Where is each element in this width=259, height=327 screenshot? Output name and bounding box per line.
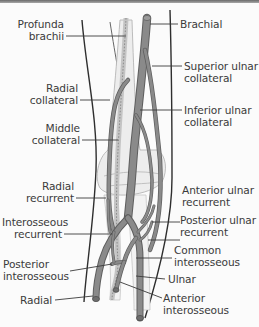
- label-line: Posterior ulnar: [180, 214, 256, 226]
- label-line: Posterior: [3, 258, 69, 270]
- label-inferior-ulnar-collateral: Inferior ulnar collateral: [184, 104, 251, 128]
- label-line: recurrent: [2, 228, 62, 240]
- label-line: Radial: [20, 294, 52, 306]
- label-line: collateral: [4, 94, 78, 106]
- label-radial-recurrent: Radial recurrent: [4, 180, 74, 204]
- label-line: recurrent: [180, 226, 256, 238]
- label-brachial: Brachial: [180, 18, 222, 30]
- label-anterior-interosseous: Anterior interosseous: [163, 292, 229, 316]
- label-anterior-ulnar-recurrent: Anterior ulnar recurrent: [182, 184, 254, 208]
- label-line: interosseous: [174, 256, 240, 268]
- label-line: recurrent: [182, 196, 254, 208]
- anterior-interosseous-cut-end: [113, 288, 119, 293]
- label-line: interosseous: [163, 304, 229, 316]
- label-line: Middle: [4, 122, 80, 134]
- label-line: Common: [174, 244, 240, 256]
- label-middle-collateral: Middle collateral: [4, 122, 80, 146]
- label-posterior-ulnar-recurrent: Posterior ulnar recurrent: [180, 214, 256, 238]
- ulnar-cut-end: [137, 315, 144, 320]
- label-line: Superior ulnar: [184, 60, 258, 72]
- label-superior-ulnar-collateral: Superior ulnar collateral: [184, 60, 258, 84]
- label-line: Anterior ulnar: [182, 184, 254, 196]
- brachial-cut-end: [143, 15, 151, 20]
- label-line: Radial: [4, 82, 78, 94]
- label-line: Inferior ulnar: [184, 104, 251, 116]
- label-radial: Radial: [20, 294, 52, 306]
- label-profunda-brachii: Profunda brachii: [4, 18, 64, 42]
- label-line: interosseous: [3, 270, 69, 282]
- label-posterior-interosseous: Posterior interosseous: [3, 258, 69, 282]
- label-line: Brachial: [180, 18, 222, 30]
- label-line: recurrent: [4, 192, 74, 204]
- label-line: collateral: [184, 116, 251, 128]
- label-common-interosseous: Common interosseous: [174, 244, 240, 268]
- limb-outline-left: [82, 20, 96, 302]
- label-line: brachii: [4, 30, 64, 42]
- label-line: Profunda: [4, 18, 64, 30]
- label-line: collateral: [4, 134, 80, 146]
- label-ulnar: Ulnar: [168, 273, 196, 285]
- label-line: Ulnar: [168, 273, 196, 285]
- radial-cut-end: [93, 296, 100, 301]
- label-line: collateral: [184, 72, 258, 84]
- label-interosseous-recurrent: Interosseous recurrent: [2, 216, 62, 240]
- label-line: Anterior: [163, 292, 229, 304]
- label-line: Interosseous: [2, 216, 62, 228]
- label-line: Radial: [4, 180, 74, 192]
- label-radial-collateral: Radial collateral: [4, 82, 78, 106]
